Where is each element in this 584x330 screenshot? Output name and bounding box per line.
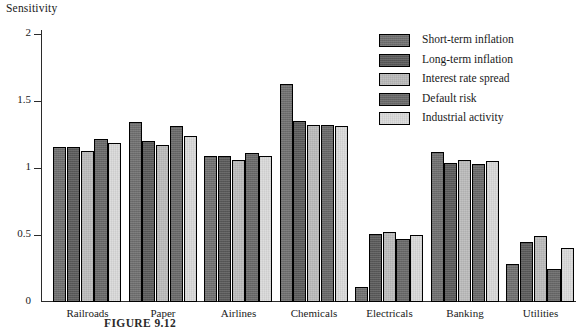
bar [81, 151, 94, 302]
legend-label: Short-term inflation [422, 33, 514, 45]
legend-swatch [379, 73, 410, 86]
bar [293, 121, 306, 302]
bar [280, 84, 293, 302]
legend-label: Default risk [422, 92, 477, 104]
chart-legend: Short-term inflationLong-term inflationI… [379, 31, 579, 129]
y-axis-tick-label: 0 [0, 294, 31, 306]
bar [170, 126, 183, 302]
legend-label: Industrial activity [422, 111, 503, 123]
figure-caption: FIGURE 9.12 [104, 317, 176, 329]
bar [396, 239, 409, 302]
legend-swatch [379, 34, 410, 47]
bar [53, 147, 66, 302]
bar-group [53, 28, 122, 302]
bar [486, 161, 499, 302]
bar [534, 236, 547, 302]
y-axis-tick-label: 0.5 [0, 227, 31, 239]
bar [472, 164, 485, 302]
legend-item: Long-term inflation [379, 51, 579, 71]
y-axis-tick-label: 2 [0, 26, 31, 38]
bar [383, 232, 396, 302]
y-axis-title: Sensitivity [6, 2, 57, 14]
bar [142, 141, 155, 302]
bar [410, 235, 423, 302]
bar [259, 156, 272, 302]
bar [561, 248, 574, 302]
bar [444, 163, 457, 302]
bar-group [204, 28, 273, 302]
bar [520, 242, 533, 302]
bar [245, 153, 258, 302]
bar [156, 145, 169, 302]
bar [369, 234, 382, 302]
sensitivity-bar-chart: Sensitivity 00.511.52 RailroadsPaperAirl… [0, 0, 584, 330]
bar [184, 136, 197, 302]
bar [232, 160, 245, 302]
bar [506, 264, 519, 302]
legend-item: Short-term inflation [379, 31, 579, 51]
bar [547, 269, 560, 303]
y-axis-tick-label: 1 [0, 160, 31, 172]
x-axis-label-utilities: Utilities [491, 307, 584, 319]
bar [335, 126, 348, 302]
bar [321, 125, 334, 302]
legend-item: Default risk [379, 90, 579, 110]
bar [355, 287, 368, 302]
legend-swatch [379, 54, 410, 67]
legend-label: Long-term inflation [422, 53, 513, 65]
legend-swatch [379, 93, 410, 106]
bar [204, 156, 217, 302]
bar [129, 122, 142, 302]
legend-item: Industrial activity [379, 109, 579, 129]
bar-group [280, 28, 349, 302]
legend-item: Interest rate spread [379, 70, 579, 90]
bar [431, 152, 444, 302]
bar-group [129, 28, 198, 302]
y-axis-tick-label: 1.5 [0, 93, 31, 105]
bar [94, 139, 107, 302]
bar [67, 147, 80, 302]
bar [108, 143, 121, 302]
bar [458, 160, 471, 302]
bar [307, 125, 320, 302]
legend-label: Interest rate spread [422, 72, 509, 84]
bar [218, 156, 231, 302]
legend-swatch [379, 112, 410, 125]
